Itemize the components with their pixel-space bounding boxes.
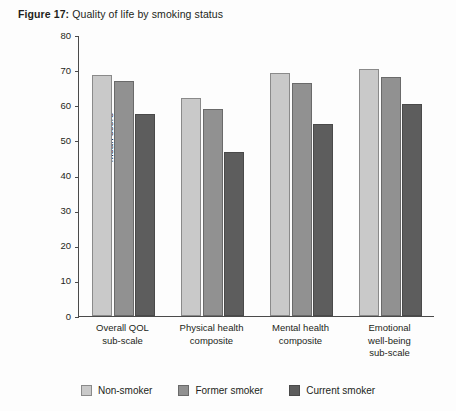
y-axis-tick-label: 40 [60, 170, 71, 181]
bar-group [181, 36, 244, 316]
bar[interactable] [92, 75, 112, 316]
chart-figure: Figure 17: Quality of life by smoking st… [0, 0, 456, 411]
figure-number: Figure 17: [18, 8, 69, 20]
y-axis-tick-label: 0 [66, 311, 71, 322]
figure-title: Figure 17: Quality of life by smoking st… [18, 8, 223, 20]
figure-caption: Quality of life by smoking status [72, 8, 223, 20]
bar-group [359, 36, 422, 316]
y-axis-tick-mark [75, 36, 80, 37]
y-axis-tick-label: 20 [60, 240, 71, 251]
y-axis-tick-label: 60 [60, 100, 71, 111]
y-axis-tick-mark [75, 177, 80, 178]
x-axis-label: Mental health composite [256, 322, 345, 347]
chart-legend: Non-smokerFormer smokerCurrent smoker [0, 385, 456, 396]
bar[interactable] [224, 152, 244, 316]
legend-label: Current smoker [306, 385, 375, 396]
bar[interactable] [292, 83, 312, 316]
legend-swatch [178, 385, 189, 396]
legend-item[interactable]: Non-smoker [81, 385, 152, 396]
y-axis-tick-mark [75, 141, 80, 142]
bar[interactable] [359, 69, 379, 316]
bar[interactable] [181, 98, 201, 316]
legend-item[interactable]: Current smoker [289, 385, 375, 396]
y-axis-tick-mark [75, 317, 80, 318]
y-axis-tick-label: 80 [60, 30, 71, 41]
y-axis-tick-label: 30 [60, 205, 71, 216]
y-axis-tick-mark [75, 282, 80, 283]
bar-group [92, 36, 155, 316]
bar[interactable] [114, 81, 134, 316]
bar[interactable] [203, 109, 223, 316]
y-axis-tick-label: 10 [60, 275, 71, 286]
legend-label: Former smoker [195, 385, 263, 396]
legend-label: Non-smoker [98, 385, 152, 396]
y-axis-tick-mark [75, 247, 80, 248]
x-axis-label: Overall QOL sub-scale [78, 322, 167, 347]
bar[interactable] [270, 73, 290, 316]
bar-group [270, 36, 333, 316]
bar[interactable] [402, 104, 422, 316]
x-axis-label: Emotional well-being sub-scale [345, 322, 434, 360]
bar[interactable] [381, 77, 401, 316]
legend-swatch [81, 385, 92, 396]
x-axis-label: Physical health composite [167, 322, 256, 347]
plot-area: Mean score 01020304050607080 [78, 36, 434, 317]
y-axis-tick-mark [75, 106, 80, 107]
legend-swatch [289, 385, 300, 396]
y-axis-tick-label: 70 [60, 65, 71, 76]
legend-item[interactable]: Former smoker [178, 385, 263, 396]
bar[interactable] [135, 114, 155, 316]
y-axis-tick-mark [75, 212, 80, 213]
bar[interactable] [313, 124, 333, 316]
y-axis-tick-mark [75, 71, 80, 72]
y-axis-tick-label: 50 [60, 135, 71, 146]
